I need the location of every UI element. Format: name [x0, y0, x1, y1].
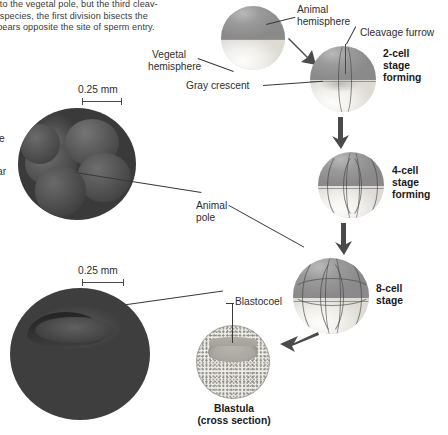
- blastula-roof-tissue: [35, 317, 113, 343]
- micrograph-8-cell: [18, 108, 136, 220]
- label-vegetal-hemisphere-line2: hemisphere: [148, 61, 201, 73]
- label-4-cell-line3: forming: [392, 189, 430, 201]
- embryo-8-cell: [293, 258, 369, 334]
- equator-line: [221, 39, 285, 40]
- body-line-3: opears opposite the site of sperm entry.: [0, 22, 212, 34]
- label-animal-hemisphere-line2: hemisphere: [297, 16, 350, 28]
- embryo-uncleaved-egg: [221, 6, 285, 70]
- leader-cleavage-furrow: [346, 26, 356, 44]
- body-line-2: e species, the first division bisects th…: [0, 11, 212, 23]
- leader-animal-pole-to-8cell: [229, 205, 305, 248]
- label-8-cell-line2: stage: [376, 295, 403, 307]
- embryo-4-cell: [318, 152, 384, 218]
- label-blastocoel: Blastocoel: [235, 296, 282, 308]
- label-animal-hemisphere-line1: Animal: [297, 4, 328, 16]
- arrow-4cell-to-8cell: [333, 222, 355, 256]
- label-animal-pole-line2: pole: [196, 212, 215, 224]
- label-8-cell-line1: 8-cell: [376, 283, 402, 295]
- label-2-cell-line2: stage: [383, 60, 410, 72]
- cropped-label-fragment-1: e: [0, 133, 5, 145]
- cropped-label-fragment-2: ar: [0, 166, 6, 178]
- label-4-cell-line2: stage: [392, 177, 419, 189]
- scale-bar-upper-label: 0.25 mm: [78, 84, 118, 96]
- figure-frog-cleavage: e to the vegetal pole, but the third cle…: [0, 0, 448, 435]
- scale-bar-lower-label: 0.25 mm: [78, 265, 118, 277]
- cleavage-furrow-line: [345, 44, 346, 74]
- arrow-8cell-to-blastula: [278, 330, 320, 354]
- body-line-1: e to the vegetal pole, but the third cle…: [0, 0, 212, 11]
- leader-blastocoel: [232, 303, 233, 343]
- blastula-cross-section: [196, 325, 270, 399]
- vegetal-hemisphere-region: [221, 39, 285, 70]
- label-2-cell-line3: forming: [383, 72, 421, 84]
- horizontal-cleavage-arc: [293, 278, 369, 306]
- cleavage-furrow-arc-3: [343, 152, 378, 218]
- arrow-2cell-to-4cell: [330, 116, 352, 150]
- leader-blastocoel-dash: [226, 303, 234, 304]
- label-cleavage-furrow: Cleavage furrow: [360, 27, 434, 39]
- label-vegetal-hemisphere-line1: Vegetal: [152, 49, 186, 61]
- label-4-cell-line1: 4-cell: [392, 165, 418, 177]
- label-blastula-line2: (cross section): [176, 415, 292, 427]
- label-animal-pole-line1: Animal: [196, 200, 227, 212]
- body-paragraph: e to the vegetal pole, but the third cle…: [0, 0, 212, 34]
- embryo-2-cell: [310, 46, 376, 112]
- label-2-cell-line1: 2-cell: [383, 48, 409, 60]
- micrograph-blastula: [10, 288, 150, 420]
- label-gray-crescent: Gray crescent: [186, 80, 249, 92]
- label-blastula-line1: Blastula: [186, 403, 282, 415]
